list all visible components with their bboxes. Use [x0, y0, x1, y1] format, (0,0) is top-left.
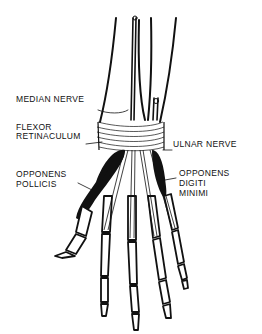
label-opponens-digiti-minimi-line1: OPPONENS — [179, 168, 230, 178]
label-opponens-pollicis-line1: OPPONENS — [16, 169, 67, 179]
label-opponens-pollicis-line2: POLLICIS — [16, 179, 57, 189]
label-opponens-digiti-minimi-line2: DIGITI — [179, 178, 206, 188]
label-median-nerve: MEDIAN NERVE — [16, 94, 84, 104]
label-opponens-digiti-minimi-line3: MINIMI — [179, 188, 208, 198]
label-ulnar-nerve: ULNAR NERVE — [173, 139, 237, 149]
label-flexor-retinaculum-line2: RETINACULUM — [16, 131, 81, 141]
hand-anatomy-illustration — [0, 0, 262, 334]
